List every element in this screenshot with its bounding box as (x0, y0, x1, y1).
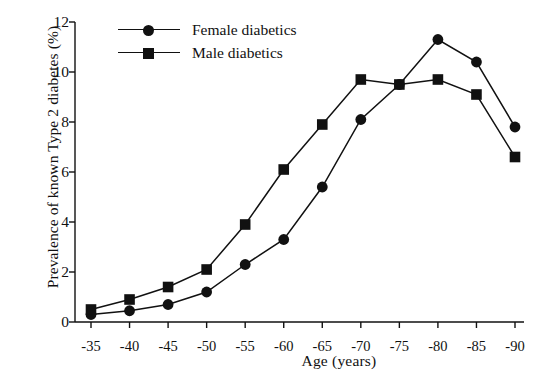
data-point-square (433, 74, 444, 85)
x-axis-ticks (91, 322, 515, 328)
data-point-square (240, 219, 251, 230)
data-point-square (124, 294, 135, 305)
data-point-circle (124, 305, 135, 316)
cutoff-caption (0, 374, 554, 380)
data-point-circle (510, 122, 521, 133)
y-axis-ticks (69, 22, 75, 322)
data-point-square (394, 79, 405, 90)
y-tick-label: 6 (35, 164, 69, 180)
chart-figure: Prevalence of known Type 2 diabetes (%) … (0, 0, 554, 380)
y-tick-label: 2 (35, 264, 69, 280)
series-line (91, 80, 515, 310)
data-point-square (86, 304, 97, 315)
data-point-square (356, 74, 367, 85)
legend-entry-female: Female diabetics (118, 18, 297, 41)
data-point-circle (278, 234, 289, 245)
data-point-circle (163, 299, 174, 310)
series-circle (86, 34, 521, 320)
data-point-square (317, 119, 328, 130)
y-tick-label: 12 (35, 14, 69, 30)
series-line (91, 40, 515, 315)
y-tick-label: 10 (35, 64, 69, 80)
x-axis-tick-labels: -35-40-45-50-55-60-65-70-75-80-85-90 (75, 330, 524, 352)
x-axis-title: Age (years) (0, 352, 554, 370)
legend-label-male: Male diabetics (192, 44, 283, 62)
plot-area (75, 22, 524, 322)
data-point-square (510, 152, 521, 163)
x-axis-title-text: Age (years) (302, 352, 377, 369)
legend-label-female: Female diabetics (192, 21, 297, 39)
y-tick-label: 4 (35, 214, 69, 230)
data-point-square (471, 89, 482, 100)
data-point-square (278, 164, 289, 175)
data-point-circle (240, 259, 251, 270)
data-series-layer (86, 34, 521, 320)
data-point-circle (317, 182, 328, 193)
data-point-circle (471, 57, 482, 68)
data-point-square (201, 264, 212, 275)
y-tick-label: 8 (35, 114, 69, 130)
data-point-square (163, 282, 174, 293)
y-tick-label: 0 (35, 314, 69, 330)
series-square (86, 74, 521, 315)
data-point-circle (355, 114, 366, 125)
chart-canvas (75, 22, 524, 322)
circle-marker-icon (118, 22, 180, 38)
legend-entry-male: Male diabetics (118, 41, 297, 64)
square-marker-icon (118, 45, 180, 61)
data-point-circle (201, 287, 212, 298)
data-point-circle (433, 34, 444, 45)
chart-legend: Female diabetics Male diabetics (118, 18, 297, 64)
axis-lines (75, 22, 524, 322)
y-axis-tick-labels: 024681012 (33, 22, 69, 322)
